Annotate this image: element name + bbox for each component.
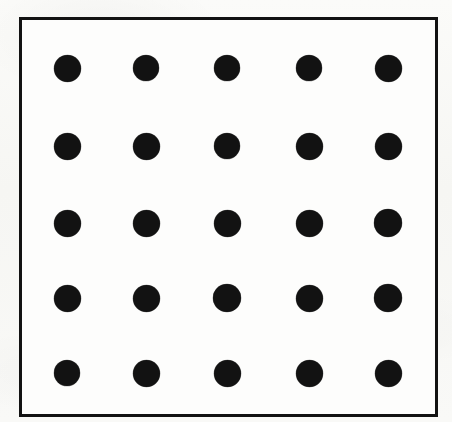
grid-dot-r3-c3 bbox=[214, 210, 241, 237]
grid-dot-r2-c1 bbox=[54, 133, 81, 160]
grid-dot-r3-c4 bbox=[296, 210, 323, 237]
grid-dot-r2-c3 bbox=[214, 133, 240, 159]
grid-dot-r4-c3 bbox=[213, 284, 241, 312]
grid-dot-r5-c1 bbox=[54, 360, 80, 386]
dot-grid-layer bbox=[0, 0, 452, 422]
grid-dot-r1-c3 bbox=[214, 55, 240, 81]
grid-dot-r1-c1 bbox=[54, 55, 81, 82]
grid-dot-r5-c4 bbox=[296, 360, 323, 387]
dot-grid-figure bbox=[0, 0, 452, 422]
grid-dot-r3-c1 bbox=[54, 210, 81, 237]
grid-dot-r1-c2 bbox=[133, 55, 159, 81]
grid-dot-r5-c2 bbox=[133, 360, 160, 387]
grid-dot-r4-c2 bbox=[133, 285, 160, 312]
grid-dot-r2-c4 bbox=[296, 133, 323, 160]
grid-dot-r2-c2 bbox=[133, 133, 160, 160]
grid-dot-r4-c1 bbox=[54, 285, 81, 312]
grid-dot-r4-c4 bbox=[296, 285, 323, 312]
grid-dot-r4-c5 bbox=[374, 284, 402, 312]
grid-dot-r3-c5 bbox=[374, 209, 402, 237]
grid-dot-r2-c5 bbox=[375, 133, 402, 160]
grid-dot-r5-c3 bbox=[214, 360, 241, 387]
grid-dot-r1-c5 bbox=[375, 55, 402, 82]
grid-dot-r5-c5 bbox=[375, 360, 402, 387]
grid-dot-r1-c4 bbox=[296, 55, 322, 81]
grid-dot-r3-c2 bbox=[133, 210, 160, 237]
